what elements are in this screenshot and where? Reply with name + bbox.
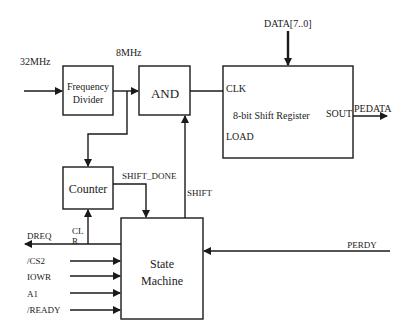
cs2-label: /CS2 bbox=[27, 256, 45, 266]
shift-register-clk-label: CLK bbox=[226, 83, 247, 94]
and-gate-label: AND bbox=[151, 86, 179, 101]
iowr-label: IOWR bbox=[27, 272, 51, 282]
block-diagram: Frequency Divider AND CLK 8-bit Shift Re… bbox=[0, 0, 420, 336]
state-machine-label-1: State bbox=[150, 257, 174, 271]
data-bus-label: DATA[7..0] bbox=[264, 18, 312, 29]
dreq-label: DREQ bbox=[27, 231, 52, 241]
a1-label: A1 bbox=[27, 289, 38, 299]
shift-register-load-label: LOAD bbox=[226, 131, 254, 142]
shift-label: SHIFT bbox=[187, 188, 213, 198]
counter-label: Counter bbox=[69, 182, 108, 196]
shift-done-wire bbox=[113, 184, 146, 217]
clr-label-1: CL bbox=[72, 226, 84, 236]
freq-divider-label-2: Divider bbox=[73, 94, 104, 105]
clk-div-label: 8MHz bbox=[116, 47, 142, 58]
clk-in-label: 32MHz bbox=[20, 56, 51, 67]
shift-register-sout-label: SOUT bbox=[326, 108, 352, 119]
state-machine-label-2: Machine bbox=[141, 274, 183, 288]
ready-label: /READY bbox=[27, 305, 61, 315]
shift-register-title: 8-bit Shift Register bbox=[233, 110, 310, 121]
shift-done-label: SHIFT_DONE bbox=[122, 171, 177, 181]
perdy-label: PERDY bbox=[347, 240, 377, 250]
freq-divider-label-1: Frequency bbox=[67, 81, 109, 92]
clr-label-2: R bbox=[72, 236, 78, 246]
pedata-label: PEDATA bbox=[354, 103, 392, 114]
